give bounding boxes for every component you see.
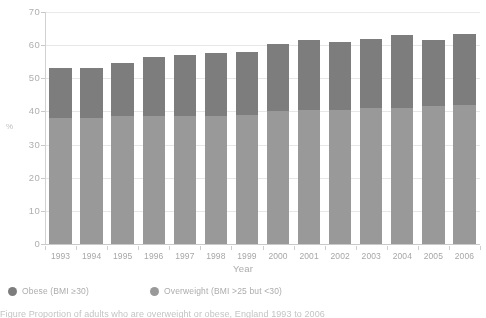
x-tick-label-1993: 1993 [45, 251, 76, 261]
bar-2002 [329, 42, 351, 244]
bar-1994 [80, 68, 102, 244]
bar-1998 [205, 53, 227, 244]
bar-segment-obese [391, 35, 413, 108]
bar-segment-overweight [391, 108, 413, 244]
bar-segment-overweight [422, 106, 444, 244]
bar-2004 [391, 35, 413, 244]
bar-1995 [111, 63, 133, 244]
x-tick-label-2004: 2004 [387, 251, 418, 261]
bar-2003 [360, 39, 382, 244]
x-tick-mark [263, 246, 264, 250]
y-tick-label: 60 [12, 39, 40, 50]
bar-segment-overweight [49, 118, 71, 244]
x-tick-mark [231, 246, 232, 250]
x-tick-mark [45, 246, 46, 250]
bar-segment-overweight [360, 108, 382, 244]
x-tick-mark [480, 246, 481, 250]
x-tick-label-1999: 1999 [231, 251, 262, 261]
x-tick-label-2005: 2005 [418, 251, 449, 261]
bar-segment-overweight [453, 105, 475, 244]
x-tick-label-1997: 1997 [169, 251, 200, 261]
x-tick-mark [76, 246, 77, 250]
bar-segment-obese [205, 53, 227, 116]
y-tick-label: 0 [12, 238, 40, 249]
bar-2005 [422, 40, 444, 244]
y-tick-label: 70 [12, 6, 40, 17]
x-tick-label-2000: 2000 [263, 251, 294, 261]
legend-label: Obese (BMI ≥30) [22, 286, 89, 296]
x-tick-mark [138, 246, 139, 250]
x-tick-mark [387, 246, 388, 250]
bar-1996 [143, 57, 165, 244]
chart-page: % 010203040506070 1993199419951996199719… [0, 0, 486, 318]
caption-line-1: Figure Proportion of adults who are over… [0, 309, 486, 318]
x-tick-mark [449, 246, 450, 250]
x-tick-mark [418, 246, 419, 250]
y-tick-label: 20 [12, 172, 40, 183]
bar-segment-obese [49, 68, 71, 118]
bar-segment-overweight [174, 116, 196, 244]
bar-2006 [453, 34, 475, 244]
y-tick-label: 30 [12, 139, 40, 150]
y-tick-label: 40 [12, 105, 40, 116]
x-tick-label-1998: 1998 [200, 251, 231, 261]
bar-segment-overweight [205, 116, 227, 244]
figure-caption: Figure Proportion of adults who are over… [0, 309, 486, 318]
bar-segment-overweight [236, 115, 258, 244]
x-tick-mark [107, 246, 108, 250]
bar-segment-obese [298, 40, 320, 110]
bar-segment-obese [360, 39, 382, 109]
x-tick-mark [200, 246, 201, 250]
bar-2000 [267, 44, 289, 245]
x-tick-label-1995: 1995 [107, 251, 138, 261]
x-tick-mark [325, 246, 326, 250]
x-axis-labels: 1993199419951996199719981999200020012002… [45, 246, 480, 262]
bar-segment-obese [422, 40, 444, 106]
legend-label: Overweight (BMI >25 but <30) [164, 286, 282, 296]
x-tick-label-2001: 2001 [294, 251, 325, 261]
legend-item-obese: Obese (BMI ≥30) [8, 286, 89, 296]
bar-2001 [298, 40, 320, 244]
bar-chart: % 010203040506070 1993199419951996199719… [0, 0, 486, 258]
bar-segment-overweight [298, 110, 320, 244]
y-tick-label: 10 [12, 205, 40, 216]
bar-segment-obese [267, 44, 289, 112]
x-tick-label-1994: 1994 [76, 251, 107, 261]
x-tick-label-2006: 2006 [449, 251, 480, 261]
chart-legend: Obese (BMI ≥30)Overweight (BMI >25 but <… [0, 286, 486, 302]
bar-1997 [174, 55, 196, 244]
x-tick-label-2003: 2003 [356, 251, 387, 261]
bar-segment-obese [80, 68, 102, 118]
x-axis-line [45, 244, 480, 245]
x-tick-mark [294, 246, 295, 250]
bar-segment-overweight [80, 118, 102, 244]
bar-segment-obese [329, 42, 351, 110]
bar-segment-overweight [143, 116, 165, 244]
bar-segment-overweight [329, 110, 351, 244]
bar-1999 [236, 52, 258, 244]
x-tick-label-2002: 2002 [325, 251, 356, 261]
bar-segment-overweight [111, 116, 133, 244]
x-axis-title: Year [0, 263, 486, 274]
legend-swatch-circle-icon [8, 287, 17, 296]
x-tick-label-1996: 1996 [138, 251, 169, 261]
x-tick-mark [169, 246, 170, 250]
bar-segment-obese [236, 52, 258, 115]
bar-segment-obese [143, 57, 165, 117]
bar-segment-obese [174, 55, 196, 116]
y-axis-ticks: 010203040506070 [6, 0, 40, 258]
legend-swatch-circle-icon [150, 287, 159, 296]
bar-series-group [45, 12, 480, 244]
y-tick-label: 50 [12, 72, 40, 83]
bar-segment-overweight [267, 111, 289, 244]
x-tick-mark [356, 246, 357, 250]
bar-1993 [49, 68, 71, 244]
legend-item-overweight: Overweight (BMI >25 but <30) [150, 286, 282, 296]
bar-segment-obese [111, 63, 133, 116]
bar-segment-obese [453, 34, 475, 105]
